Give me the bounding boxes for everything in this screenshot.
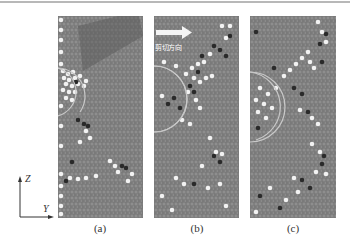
- axes-indicator: Z Y: [16, 175, 56, 220]
- caption-b: (b): [177, 222, 217, 234]
- panel-b: 剪切方向: [154, 16, 239, 218]
- caption-c: (c): [273, 222, 313, 234]
- shear-direction-label: 剪切方向: [155, 42, 181, 52]
- axes-arrows: [16, 175, 56, 220]
- panel-c: [250, 16, 336, 218]
- z-axis-label: Z: [25, 173, 31, 184]
- panel-a: [58, 16, 143, 218]
- atom-overlay-c: [250, 16, 336, 218]
- arrow-head: [182, 26, 192, 39]
- caption-a: (a): [80, 222, 120, 234]
- y-axis-label: Y: [43, 203, 49, 214]
- atom-overlay-a: [58, 16, 143, 218]
- arrow-shaft: [156, 30, 182, 35]
- top-rule: [0, 1, 350, 3]
